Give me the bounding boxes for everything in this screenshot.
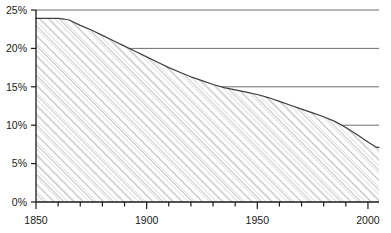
x-axis-label: 1900	[135, 214, 159, 226]
percent-share-area-chart: 0%5%10%15%20%25% 1850190019502000	[0, 0, 391, 233]
x-axis-label: 2000	[356, 214, 380, 226]
y-axis-label: 20%	[6, 42, 27, 54]
x-axis-ticks	[36, 202, 368, 209]
area-fill-secondary	[36, 18, 379, 202]
x-axis-label: 1950	[246, 214, 270, 226]
y-axis-label: 25%	[6, 4, 27, 16]
chart-container: 0%5%10%15%20%25% 1850190019502000	[0, 0, 391, 233]
y-axis-tick-labels: 0%5%10%15%20%25%	[6, 4, 27, 208]
y-axis-label: 0%	[12, 196, 27, 208]
x-axis-label: 1850	[24, 214, 48, 226]
y-axis-ticks	[31, 10, 36, 202]
y-axis-label: 10%	[6, 119, 27, 131]
y-axis-label: 5%	[12, 157, 27, 169]
y-axis-label: 15%	[6, 81, 27, 93]
area-series	[36, 18, 379, 202]
x-axis-tick-labels: 1850190019502000	[24, 214, 379, 226]
